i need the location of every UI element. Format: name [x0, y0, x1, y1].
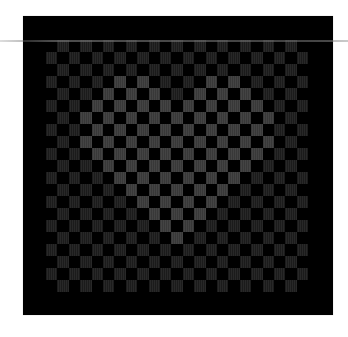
heart-cell: [171, 232, 182, 244]
checker-cell: [251, 52, 262, 64]
checker-cell: [228, 244, 239, 256]
checker-cell: [240, 208, 251, 220]
heart-cell: [160, 220, 171, 232]
checker-cell: [251, 244, 262, 256]
heart-cell: [217, 184, 228, 196]
checker-cell: [80, 64, 91, 76]
checker-cell: [240, 232, 251, 244]
heart-cell: [228, 172, 239, 184]
checker-cell: [274, 124, 285, 136]
checker-cell: [126, 280, 137, 292]
heart-cell: [171, 136, 182, 148]
checker-cell: [285, 160, 296, 172]
checker-cell: [285, 112, 296, 124]
heart-cell: [92, 100, 103, 112]
checker-cell: [57, 112, 68, 124]
heart-cell: [171, 112, 182, 124]
checker-cell: [137, 220, 148, 232]
checker-cell: [69, 100, 80, 112]
checker-cell: [285, 88, 296, 100]
checker-cell: [80, 256, 91, 268]
checker-cell: [69, 148, 80, 160]
checker-cell: [149, 232, 160, 244]
checker-cell: [297, 148, 308, 160]
checker-cell: [114, 268, 125, 280]
checker-cell: [114, 196, 125, 208]
checker-cell: [194, 232, 205, 244]
heart-cell: [126, 136, 137, 148]
checker-cell: [297, 172, 308, 184]
checker-cell: [114, 244, 125, 256]
checker-cell: [160, 52, 171, 64]
checker-cell: [69, 172, 80, 184]
heart-cell: [126, 184, 137, 196]
checker-cell: [92, 220, 103, 232]
heart-cell: [194, 136, 205, 148]
checker-cell: [69, 244, 80, 256]
checker-cell: [57, 232, 68, 244]
checker-cell: [297, 196, 308, 208]
checker-cell: [194, 256, 205, 268]
checker-cell: [114, 52, 125, 64]
heart-cell: [217, 160, 228, 172]
checker-cell: [263, 208, 274, 220]
checker-cell: [263, 88, 274, 100]
heart-cell: [228, 148, 239, 160]
checker-cell: [57, 256, 68, 268]
heart-cell: [160, 124, 171, 136]
checker-cell: [206, 268, 217, 280]
checker-cell: [297, 268, 308, 280]
heart-cell: [228, 100, 239, 112]
checker-cell: [149, 64, 160, 76]
heart-cell: [171, 208, 182, 220]
checker-cell: [149, 280, 160, 292]
checker-cell: [274, 76, 285, 88]
heart-cell: [183, 148, 194, 160]
heart-cell: [194, 160, 205, 172]
heart-cell: [240, 88, 251, 100]
heart-cell: [206, 100, 217, 112]
checker-cell: [69, 76, 80, 88]
checker-cell: [80, 232, 91, 244]
heart-cell: [114, 100, 125, 112]
checker-cell: [46, 172, 57, 184]
heart-cell: [240, 112, 251, 124]
heart-cell: [149, 208, 160, 220]
checker-cell: [251, 220, 262, 232]
heart-cell: [92, 124, 103, 136]
checker-cell: [297, 220, 308, 232]
heart-cell: [263, 112, 274, 124]
checkerboard-heart-image: [23, 16, 333, 315]
checker-cell: [92, 76, 103, 88]
checker-cell: [46, 148, 57, 160]
checker-cell: [274, 148, 285, 160]
checker-cell: [217, 64, 228, 76]
checker-cell: [171, 88, 182, 100]
checker-cell: [46, 244, 57, 256]
checker-cell: [228, 220, 239, 232]
checker-cell: [240, 64, 251, 76]
checker-cell: [160, 244, 171, 256]
checker-cell: [297, 244, 308, 256]
heart-cell: [171, 160, 182, 172]
checker-cell: [183, 268, 194, 280]
checker-cell: [171, 64, 182, 76]
checker-cell: [285, 280, 296, 292]
checker-cell: [137, 52, 148, 64]
checker-cell: [263, 280, 274, 292]
heart-cell: [206, 172, 217, 184]
checker-cell: [57, 208, 68, 220]
heart-cell: [206, 148, 217, 160]
heart-cell: [160, 196, 171, 208]
checker-cell: [274, 52, 285, 64]
checker-cell: [160, 76, 171, 88]
heart-cell: [149, 184, 160, 196]
checker-cell: [149, 256, 160, 268]
checker-cell: [228, 196, 239, 208]
checker-cell: [46, 124, 57, 136]
checker-cell: [285, 64, 296, 76]
heart-cell: [194, 112, 205, 124]
heart-cell: [114, 76, 125, 88]
heart-cell: [206, 124, 217, 136]
heart-cell: [251, 148, 262, 160]
